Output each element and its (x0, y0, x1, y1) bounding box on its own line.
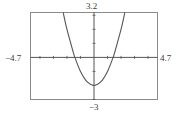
plot-area (0, 0, 179, 117)
axes (31, 13, 158, 100)
